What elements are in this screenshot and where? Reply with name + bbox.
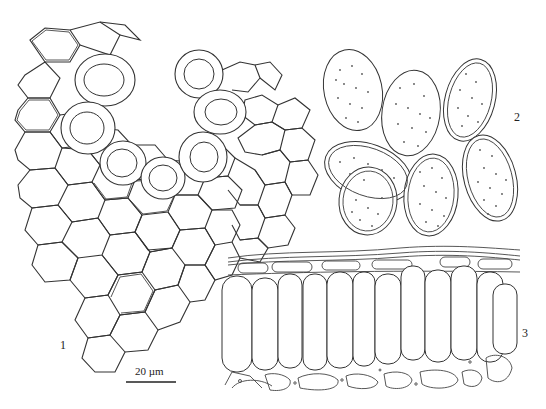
panel-label-2: 2 [514,110,520,125]
panel-3-palisade-section [222,246,520,390]
figure: 20 µm 1 2 3 [0,0,546,409]
thick-walled-cells [61,50,246,199]
panel-2-spores [316,44,526,238]
figure-drawing [0,0,546,409]
palisade-cells [222,266,517,372]
scale-bar-label: 20 µm [135,365,164,377]
panel-label-3: 3 [522,326,528,341]
panel-label-1: 1 [60,338,66,353]
